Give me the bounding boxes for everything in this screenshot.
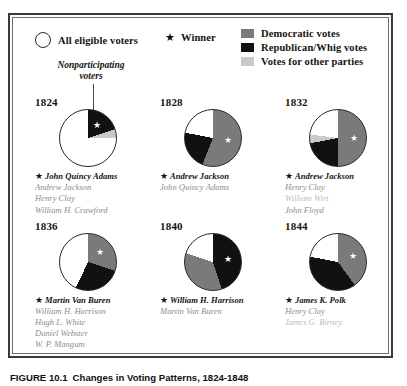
winner-star-icon: ★ xyxy=(285,295,293,305)
figure-frame: All eligible voters ★ Winner Democratic … xyxy=(8,13,393,358)
candidate-list: ★Andrew JacksonHenry ClayWilliam WirtJoh… xyxy=(285,171,388,216)
legend-winner-label: Winner xyxy=(181,32,216,43)
candidate-name: William Wirt xyxy=(285,193,388,204)
candidate-winner: ★Andrew Jackson xyxy=(285,171,388,182)
swatch-democratic-icon xyxy=(241,29,254,38)
pie-slices xyxy=(59,233,117,291)
candidate-name: Henry Clay xyxy=(285,182,388,193)
winner-star-icon: ★ xyxy=(285,171,293,181)
candidate-label: John Floyd xyxy=(285,205,324,215)
legend-label-whig: Republican/Whig votes xyxy=(261,42,367,53)
candidate-name: Henry Clay xyxy=(35,193,138,204)
pie-chart-1840: ★ xyxy=(184,233,242,291)
candidate-label: Andrew Jackson xyxy=(170,171,229,181)
pie-chart-1844: ★ xyxy=(309,233,367,291)
swatch-other-icon xyxy=(241,57,254,66)
candidate-name: Hugh L. White xyxy=(35,317,138,328)
pie-slices xyxy=(184,233,242,291)
candidate-list: ★James K. PolkHenry ClayJames G. Birney xyxy=(285,295,388,329)
candidate-label: Andrew Jackson xyxy=(295,171,354,181)
candidate-name: Andrew Jackson xyxy=(35,182,138,193)
pie-slices xyxy=(309,233,367,291)
pie-chart-1828: ★ xyxy=(184,109,242,167)
candidate-name: W. P. Mangum xyxy=(35,339,138,350)
pie-slices xyxy=(184,109,242,167)
candidate-label: William Wirt xyxy=(285,193,329,203)
callout-line-2: voters xyxy=(79,71,102,81)
winner-star-icon: ★ xyxy=(35,295,43,305)
legend-item-other: Votes for other parties xyxy=(241,56,367,67)
callout-line-1: Nonparticipating xyxy=(57,60,124,70)
winner-star-icon: ★ xyxy=(35,171,43,181)
candidate-name: James G. Birney xyxy=(285,317,388,328)
candidate-label: William H. Harrison xyxy=(35,306,106,316)
election-year-label: 1840 xyxy=(160,220,263,232)
election-cell-1828: 1828★★Andrew JacksonJohn Quincy Adams xyxy=(138,96,263,216)
legend-item-whig: Republican/Whig votes xyxy=(241,42,367,53)
election-year-label: 1828 xyxy=(160,96,263,108)
election-year-label: 1832 xyxy=(285,96,388,108)
swatch-whig-icon xyxy=(241,43,254,52)
election-cell-1840: 1840★★William H. HarrisonMartin Van Bure… xyxy=(138,220,263,351)
candidate-label: James K. Polk xyxy=(295,295,346,305)
pie-chart-1824: ★ xyxy=(59,109,117,167)
legend-label-other: Votes for other parties xyxy=(261,56,363,67)
legend-label-democratic: Democratic votes xyxy=(261,28,340,39)
pie-chart-1832: ★ xyxy=(309,109,367,167)
candidate-label: John Quincy Adams xyxy=(45,171,117,181)
pie-slices xyxy=(309,109,367,167)
candidate-list: ★Martin Van BurenWilliam H. HarrisonHugh… xyxy=(35,295,138,351)
election-cell-1832: 1832★★Andrew JacksonHenry ClayWilliam Wi… xyxy=(263,96,388,216)
candidate-label: John Quincy Adams xyxy=(160,182,229,192)
legend-item-democratic: Democratic votes xyxy=(241,28,367,39)
caption-number: FIGURE 10.1 xyxy=(10,372,68,383)
winner-star-icon: ★ xyxy=(160,171,168,181)
election-cell-1824: 1824★★John Quincy AdamsAndrew JacksonHen… xyxy=(13,96,138,216)
candidate-name: Martin Van Buren xyxy=(160,306,263,317)
caption-text: Changes in Voting Patterns, 1824-1848 xyxy=(73,372,249,383)
figure-caption: FIGURE 10.1Changes in Voting Patterns, 1… xyxy=(10,372,400,383)
election-year-label: 1824 xyxy=(35,96,138,108)
candidate-label: William H. Crawford xyxy=(35,205,108,215)
candidate-winner: ★James K. Polk xyxy=(285,295,388,306)
pie-chart-1836: ★ xyxy=(59,233,117,291)
candidate-name: William H. Crawford xyxy=(35,205,138,216)
candidate-winner: ★William H. Harrison xyxy=(160,295,263,306)
candidate-label: Hugh L. White xyxy=(35,317,85,327)
candidate-label: Henry Clay xyxy=(285,182,325,192)
candidate-label: Andrew Jackson xyxy=(35,182,91,192)
candidate-winner: ★John Quincy Adams xyxy=(35,171,138,182)
candidate-label: Henry Clay xyxy=(35,193,75,203)
candidate-name: John Quincy Adams xyxy=(160,182,263,193)
legend-eligible-voters: All eligible voters xyxy=(35,32,138,48)
legend-winner: ★ Winner xyxy=(165,32,216,43)
candidate-list: ★Andrew JacksonJohn Quincy Adams xyxy=(160,171,263,193)
pie-chart-grid: 1824★★John Quincy AdamsAndrew JacksonHen… xyxy=(13,96,388,351)
legend-eligible-label: All eligible voters xyxy=(58,35,138,46)
candidate-label: Daniel Webster xyxy=(35,328,88,338)
election-cell-1844: 1844★★James K. PolkHenry ClayJames G. Bi… xyxy=(263,220,388,351)
candidate-label: James G. Birney xyxy=(285,317,342,327)
candidate-label: W. P. Mangum xyxy=(35,339,85,349)
candidate-list: ★William H. HarrisonMartin Van Buren xyxy=(160,295,263,317)
circle-icon xyxy=(35,32,51,48)
candidate-name: Henry Clay xyxy=(285,306,388,317)
candidate-label: Martin Van Buren xyxy=(45,295,110,305)
candidate-label: Henry Clay xyxy=(285,306,325,316)
candidate-label: William H. Harrison xyxy=(170,295,243,305)
candidate-name: William H. Harrison xyxy=(35,306,138,317)
winner-star-icon: ★ xyxy=(160,295,168,305)
candidate-list: ★John Quincy AdamsAndrew JacksonHenry Cl… xyxy=(35,171,138,216)
candidate-winner: ★Andrew Jackson xyxy=(160,171,263,182)
election-cell-1836: 1836★★Martin Van BurenWilliam H. Harriso… xyxy=(13,220,138,351)
figure-inner: All eligible voters ★ Winner Democratic … xyxy=(12,17,389,354)
election-year-label: 1836 xyxy=(35,220,138,232)
candidate-name: John Floyd xyxy=(285,205,388,216)
candidate-name: Daniel Webster xyxy=(35,328,138,339)
election-year-label: 1844 xyxy=(285,220,388,232)
legend-party-swatches: Democratic votes Republican/Whig votes V… xyxy=(241,28,367,67)
candidate-winner: ★Martin Van Buren xyxy=(35,295,138,306)
nonparticipating-callout: Nonparticipating voters xyxy=(37,60,145,81)
candidate-label: Martin Van Buren xyxy=(160,306,222,316)
pie-slices xyxy=(59,109,117,167)
